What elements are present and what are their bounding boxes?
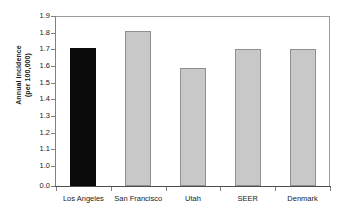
x-axis-category-label: Utah bbox=[166, 194, 221, 204]
x-axis-tick-mark bbox=[330, 187, 331, 191]
x-axis-tick-mark bbox=[220, 187, 221, 191]
x-axis-tick-mark bbox=[111, 187, 112, 191]
x-axis-category-label: SEER bbox=[220, 194, 275, 204]
x-axis-tick-mark bbox=[275, 187, 276, 191]
x-axis-tick-marks bbox=[0, 0, 346, 214]
x-axis-tick-mark bbox=[166, 187, 167, 191]
x-axis-category-labels: Los AngelesSan FranciscoUtahSEERDenmark bbox=[0, 194, 346, 208]
x-axis-category-label: Los Angeles bbox=[56, 194, 111, 204]
x-axis-tick-mark bbox=[56, 187, 57, 191]
bar-chart-figure: Annual incidence (per 100,000) 1.91.81.7… bbox=[0, 0, 346, 214]
x-axis-category-label: San Francisco bbox=[111, 194, 166, 204]
x-axis-category-label: Denmark bbox=[275, 194, 330, 204]
